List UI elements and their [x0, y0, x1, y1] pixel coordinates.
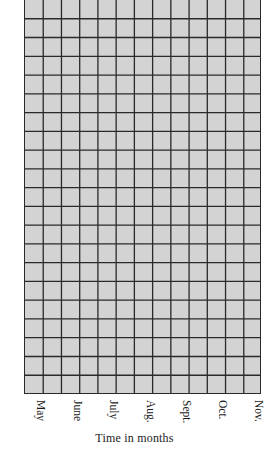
blank-graph-grid — [24, 0, 261, 394]
grid-lines — [25, 0, 261, 394]
month-label-may: May — [34, 400, 46, 421]
month-label-nov: Nov. — [252, 400, 264, 422]
month-label-july: July — [107, 400, 119, 419]
x-axis-title: Time in months — [0, 431, 269, 446]
month-label-sept: Sept. — [180, 400, 192, 423]
month-label-oct: Oct. — [216, 400, 228, 419]
month-label-june: June — [71, 400, 83, 421]
month-label-aug: Aug. — [144, 400, 156, 423]
